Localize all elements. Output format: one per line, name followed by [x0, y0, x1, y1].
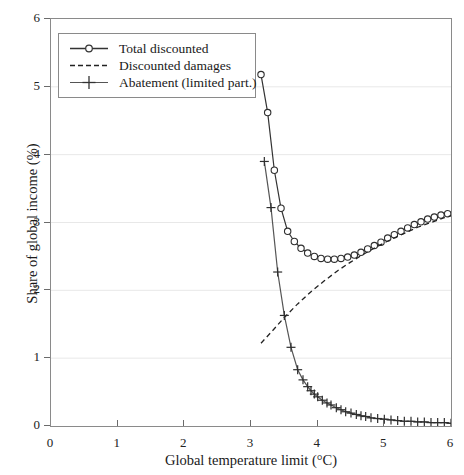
legend-label: Total discounted: [112, 40, 208, 57]
data-point-marker: [258, 71, 264, 77]
chart-legend: Total discounted Discounted damages Abat…: [58, 33, 256, 98]
series-line: [264, 161, 451, 423]
data-point-marker: [278, 205, 284, 211]
data-point-marker: [351, 252, 357, 258]
data-point-marker: [284, 228, 290, 234]
x-tick-mark: [317, 420, 318, 426]
x-tick-label: 5: [363, 436, 403, 449]
data-point-marker: [318, 255, 324, 261]
legend-key-open-circle-line: [66, 40, 112, 57]
x-tick-label: 1: [97, 436, 137, 449]
x-tick-label: 3: [230, 436, 270, 449]
data-point-marker: [380, 415, 389, 424]
legend-item-abatement: Abatement (limited part.): [66, 74, 248, 91]
x-tick-label: 6: [430, 436, 464, 449]
data-point-marker: [344, 254, 350, 260]
x-tick-mark: [183, 420, 184, 426]
x-tick-label: 2: [163, 436, 203, 449]
legend-label: Abatement (limited part.): [112, 74, 257, 91]
data-point-marker: [291, 238, 297, 244]
data-point-marker: [361, 412, 370, 421]
data-point-marker: [287, 343, 296, 352]
data-point-marker: [357, 411, 366, 420]
y-axis-title: Share of global income (%): [24, 24, 41, 424]
data-point-marker: [271, 167, 277, 173]
data-point-marker: [393, 416, 402, 425]
data-point-marker: [440, 418, 449, 426]
x-tick-label: 4: [297, 436, 337, 449]
legend-key-plus-line: [66, 74, 112, 91]
legend-item-discounted-damages: Discounted damages: [66, 57, 248, 74]
data-point-marker: [347, 409, 356, 418]
data-point-marker: [424, 216, 430, 222]
data-point-marker: [311, 253, 317, 259]
x-tick-mark: [383, 420, 384, 426]
data-point-marker: [387, 415, 396, 424]
data-point-marker: [264, 109, 270, 115]
data-point-marker: [341, 407, 350, 416]
data-point-marker: [338, 255, 344, 261]
x-axis-title: Global temperature limit (°C): [50, 452, 452, 469]
y-tick-label: 6: [0, 11, 40, 24]
data-point-marker: [267, 203, 276, 212]
data-point-marker: [304, 250, 310, 256]
legend-item-total-discounted: Total discounted: [66, 40, 248, 57]
data-point-marker: [298, 245, 304, 251]
data-point-marker: [352, 410, 361, 419]
data-point-marker: [373, 414, 382, 423]
data-point-marker: [280, 311, 289, 320]
data-point-marker: [299, 375, 308, 384]
data-point-marker: [438, 212, 444, 218]
x-tick-mark: [250, 420, 251, 426]
data-point-marker: [418, 219, 424, 225]
data-point-marker: [273, 268, 282, 277]
data-point-marker: [260, 157, 269, 166]
data-point-marker: [411, 221, 417, 227]
legend-label: Discounted damages: [112, 57, 231, 74]
data-point-marker: [431, 214, 437, 220]
data-point-marker: [324, 256, 330, 262]
x-tick-label: 0: [30, 436, 70, 449]
data-point-marker: [293, 365, 302, 374]
legend-key-dashed-line: [66, 57, 112, 74]
data-point-marker: [364, 246, 370, 252]
data-point-marker: [407, 417, 416, 426]
x-tick-mark: [117, 420, 118, 426]
data-point-marker: [420, 417, 429, 426]
data-point-marker: [367, 413, 376, 422]
data-point-marker: [337, 405, 346, 414]
data-point-marker: [331, 256, 337, 262]
chart-figure: 0123456 Share of global income (%) 01234…: [0, 0, 464, 475]
